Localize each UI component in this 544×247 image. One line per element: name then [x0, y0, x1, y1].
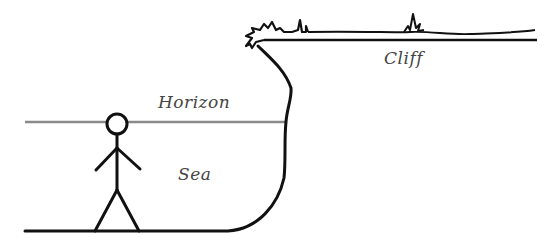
cliff-face-and-ground — [25, 46, 291, 231]
sea-label: Sea — [178, 164, 211, 184]
stick-figure-left-arm — [96, 148, 117, 170]
stick-figure-right-arm — [117, 148, 140, 169]
cliff-edge-grass — [246, 20, 308, 48]
stick-figure-right-leg — [117, 190, 139, 231]
cliff-label: Cliff — [384, 48, 423, 68]
stick-figure-head — [107, 114, 127, 134]
grass-tuft — [404, 14, 424, 32]
stick-figure-left-leg — [95, 190, 117, 231]
stick-figure — [95, 114, 140, 231]
diagram-canvas — [0, 0, 544, 247]
horizon-label: Horizon — [158, 92, 230, 112]
